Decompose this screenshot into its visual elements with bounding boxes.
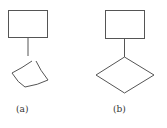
panel-b-label: (b) [113, 104, 126, 114]
panel-a-rectangle [9, 11, 48, 38]
panel-b-diamond [96, 57, 154, 93]
panel-a-curved-shape [12, 61, 48, 87]
panel-b-rectangle [106, 11, 145, 39]
panel-a-label: (a) [16, 104, 28, 114]
panel-a [9, 11, 49, 88]
panel-b [96, 11, 154, 94]
